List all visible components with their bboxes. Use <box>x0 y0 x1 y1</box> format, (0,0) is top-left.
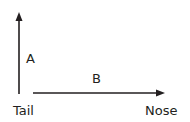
arrowhead-right-icon <box>156 90 165 97</box>
arrow-b <box>33 90 165 97</box>
label-tail: Tail <box>13 104 34 117</box>
label-b: B <box>92 72 101 85</box>
label-nose: Nose <box>145 104 177 117</box>
arrowhead-up-icon <box>16 12 23 21</box>
label-a: A <box>26 52 35 65</box>
arrow-a <box>16 12 23 94</box>
